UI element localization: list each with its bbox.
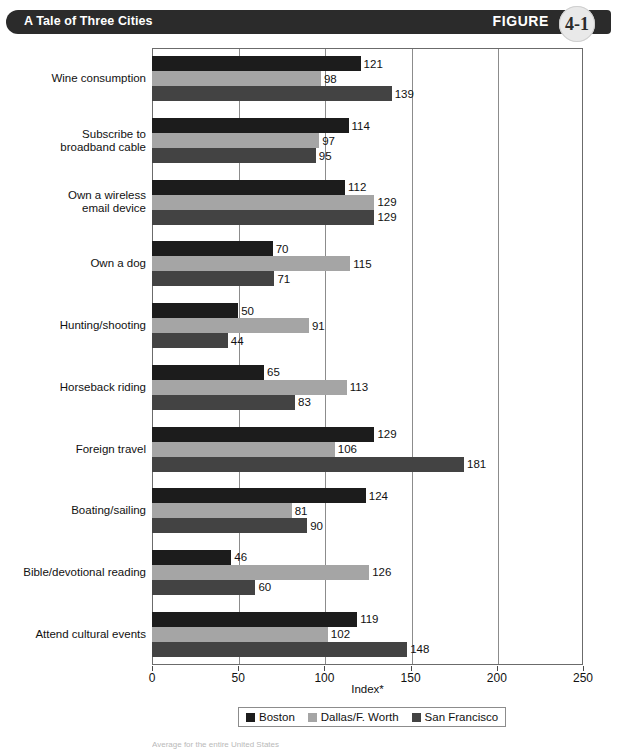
legend-label: San Francisco xyxy=(425,711,499,723)
bar-value-label: 129 xyxy=(374,211,396,223)
bar-value-label: 81 xyxy=(292,505,308,517)
bar-dallas-f-worth xyxy=(152,380,347,395)
bar-boston xyxy=(152,612,357,627)
bar-row: 126 xyxy=(152,565,583,580)
chart-category-axis: Wine consumptionSubscribe tobroadband ca… xyxy=(0,48,146,665)
legend-swatch-icon xyxy=(412,713,421,722)
bar-value-label: 65 xyxy=(264,366,280,378)
bar-value-label: 102 xyxy=(328,628,350,640)
bar-value-label: 83 xyxy=(295,396,311,408)
bar-san-francisco xyxy=(152,518,307,533)
bar-value-label: 121 xyxy=(361,58,383,70)
bar-boston xyxy=(152,118,349,133)
legend-item: Boston xyxy=(246,711,295,723)
figure-number-badge: 4-1 xyxy=(559,6,595,42)
category-label-line: Own a wireless xyxy=(0,189,146,202)
chart-x-axis: 050100150200250 xyxy=(152,666,583,684)
category-label-line: Boating/sailing xyxy=(0,504,146,517)
bar-row: 97 xyxy=(152,133,583,148)
bar-value-label: 46 xyxy=(231,551,247,563)
bar-row: 71 xyxy=(152,271,583,286)
bar-san-francisco xyxy=(152,457,464,472)
figure-number-text: 4-1 xyxy=(559,6,595,42)
bar-dallas-f-worth xyxy=(152,256,350,271)
legend-swatch-icon xyxy=(246,713,255,722)
category-label: Own a wirelessemail device xyxy=(0,189,146,215)
bar-row: 65 xyxy=(152,365,583,380)
bar-row: 113 xyxy=(152,380,583,395)
category-label: Foreign travel xyxy=(0,443,146,456)
legend-swatch-icon xyxy=(308,713,317,722)
bar-row: 119 xyxy=(152,612,583,627)
bar-row: 102 xyxy=(152,627,583,642)
bar-boston xyxy=(152,427,374,442)
bar-value-label: 115 xyxy=(350,258,371,270)
bar-value-label: 95 xyxy=(316,150,332,162)
bar-value-label: 106 xyxy=(335,443,357,455)
category-label-line: Hunting/shooting xyxy=(0,319,146,332)
bar-dallas-f-worth xyxy=(152,195,374,210)
bar-san-francisco xyxy=(152,271,274,286)
bar-value-label: 90 xyxy=(307,520,323,532)
bar-row: 129 xyxy=(152,195,583,210)
bar-value-label: 50 xyxy=(238,305,254,317)
bar-value-label: 139 xyxy=(392,88,414,100)
bar-dallas-f-worth xyxy=(152,442,335,457)
category-label-line: Wine consumption xyxy=(0,72,146,85)
bar-san-francisco xyxy=(152,86,392,101)
chart-footnote: Average for the entire United States xyxy=(152,740,592,749)
category-label: Bible/devotional reading xyxy=(0,566,146,579)
bar-row: 115 xyxy=(152,256,583,271)
bar-dallas-f-worth xyxy=(152,133,319,148)
bar-san-francisco xyxy=(152,333,228,348)
bar-value-label: 119 xyxy=(357,613,378,625)
category-label-line: broadband cable xyxy=(0,141,146,154)
bar-value-label: 181 xyxy=(464,458,486,470)
bar-value-label: 70 xyxy=(273,243,289,255)
bar-dallas-f-worth xyxy=(152,627,328,642)
bar-value-label: 112 xyxy=(345,181,366,193)
bar-row: 129 xyxy=(152,427,583,442)
bar-boston xyxy=(152,241,273,256)
bar-boston xyxy=(152,180,345,195)
bar-san-francisco xyxy=(152,580,255,595)
bar-boston xyxy=(152,550,231,565)
bar-row: 90 xyxy=(152,518,583,533)
bar-value-label: 71 xyxy=(274,273,290,285)
bar-value-label: 60 xyxy=(255,581,271,593)
category-label: Wine consumption xyxy=(0,72,146,85)
category-label-line: Horseback riding xyxy=(0,381,146,394)
bar-row: 60 xyxy=(152,580,583,595)
figure-title: A Tale of Three Cities xyxy=(24,14,153,28)
bar-row: 181 xyxy=(152,457,583,472)
bar-san-francisco xyxy=(152,210,374,225)
bar-dallas-f-worth xyxy=(152,565,369,580)
category-label: Boating/sailing xyxy=(0,504,146,517)
bar-value-label: 113 xyxy=(347,381,368,393)
bar-value-label: 129 xyxy=(374,428,396,440)
bar-value-label: 148 xyxy=(407,643,429,655)
bar-row: 148 xyxy=(152,642,583,657)
chart-legend: BostonDallas/F. WorthSan Francisco xyxy=(238,707,506,727)
category-label: Attend cultural events xyxy=(0,628,146,641)
bar-dallas-f-worth xyxy=(152,71,321,86)
bar-row: 91 xyxy=(152,318,583,333)
category-label-line: Subscribe to xyxy=(0,128,146,141)
category-label-line: email device xyxy=(0,202,146,215)
bar-boston xyxy=(152,303,238,318)
bar-row: 50 xyxy=(152,303,583,318)
bar-boston xyxy=(152,365,264,380)
x-axis-title: Index* xyxy=(152,683,583,695)
bar-row: 95 xyxy=(152,148,583,163)
category-label-line: Own a dog xyxy=(0,257,146,270)
bar-row: 44 xyxy=(152,333,583,348)
bar-san-francisco xyxy=(152,395,295,410)
bar-value-label: 97 xyxy=(319,135,335,147)
bar-value-label: 98 xyxy=(321,73,337,85)
bar-value-label: 129 xyxy=(374,196,396,208)
bar-value-label: 44 xyxy=(228,335,244,347)
bar-row: 124 xyxy=(152,488,583,503)
bar-row: 139 xyxy=(152,86,583,101)
chart-bars-layer: 1219813911497951121291297011571509144651… xyxy=(152,48,583,665)
bar-boston xyxy=(152,56,361,71)
